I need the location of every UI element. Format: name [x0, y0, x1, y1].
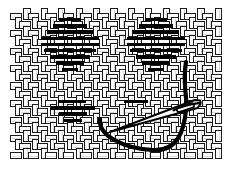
stitch-row — [133, 30, 179, 33]
stitch-row — [51, 106, 95, 109]
illustration-canvas: Cross-stitch hearts on woven aida fabric… — [0, 0, 237, 172]
stitch-row — [124, 100, 148, 103]
stitch-row — [127, 43, 185, 46]
warp-thread-body — [215, 9, 221, 20]
weft-thread — [202, 152, 213, 158]
weft-thread — [185, 152, 196, 158]
stitch-row — [59, 112, 87, 115]
warp-thread-body — [215, 131, 221, 142]
weft-thread-body — [98, 152, 109, 158]
stitch-row — [58, 100, 86, 103]
weft-thread-body — [115, 152, 126, 158]
warp-thread — [215, 61, 221, 72]
stitch-row — [50, 55, 90, 58]
stitch-row — [41, 37, 99, 40]
weft-thread-body — [185, 152, 196, 158]
cross-stitch-illustration: Cross-stitch hearts on woven aida fabric… — [0, 0, 237, 172]
stitch-row — [130, 49, 182, 52]
stitch-row — [41, 43, 99, 46]
weft-thread — [150, 152, 161, 158]
stitch-row — [148, 68, 164, 71]
weft-thread-body — [150, 152, 161, 158]
weft-thread — [63, 152, 74, 158]
weft-thread-body — [46, 152, 57, 158]
weft-thread-body — [11, 152, 22, 158]
stitch-row — [53, 24, 87, 27]
warp-thread-body — [215, 113, 221, 124]
weft-thread — [98, 152, 109, 158]
warp-thread-body — [215, 96, 221, 107]
warp-thread — [215, 44, 221, 55]
weft-thread — [115, 152, 126, 158]
stitch-row — [136, 55, 176, 58]
weft-thread — [168, 152, 179, 158]
warp-thread — [215, 113, 221, 124]
warp-thread-body — [215, 26, 221, 37]
weft-thread-body — [133, 152, 144, 158]
weft-thread-body — [168, 152, 179, 158]
stitch-row — [44, 49, 96, 52]
stitch-row — [139, 24, 173, 27]
weft-thread — [11, 152, 22, 158]
warp-thread — [215, 96, 221, 107]
warp-thread — [215, 131, 221, 142]
weft-thread-body — [81, 152, 92, 158]
stitch-row — [127, 37, 185, 40]
stitch-row — [142, 61, 170, 64]
weft-thread-body — [202, 152, 213, 158]
stitch-row — [64, 119, 82, 122]
fabric-weave — [11, 9, 222, 159]
stitch-row — [145, 18, 167, 21]
stitch-row-working — [124, 100, 148, 103]
warp-thread-body — [215, 61, 221, 72]
stitch-row — [59, 18, 81, 21]
warp-thread-body — [215, 148, 221, 159]
warp-thread — [215, 26, 221, 37]
warp-thread-body — [215, 79, 221, 90]
warp-thread — [215, 148, 221, 159]
stitch-row — [56, 61, 84, 64]
stitch-row — [47, 30, 93, 33]
weft-thread — [46, 152, 57, 158]
weft-thread-body — [28, 152, 39, 158]
warp-thread — [215, 79, 221, 90]
warp-thread — [215, 9, 221, 20]
stitch-row — [62, 68, 78, 71]
warp-thread-body — [215, 44, 221, 55]
weft-thread-body — [63, 152, 74, 158]
weft-thread — [28, 152, 39, 158]
weft-thread — [81, 152, 92, 158]
weft-thread — [133, 152, 144, 158]
